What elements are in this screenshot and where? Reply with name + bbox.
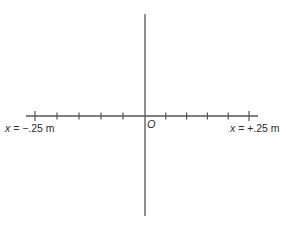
origin-label: O [147,119,156,130]
axes-svg [0,0,286,227]
x-min-label: x = −.25 m [5,123,55,134]
x-max-label: x = +.25 m [230,123,280,134]
coordinate-diagram: x = −.25 m O x = +.25 m [0,0,286,227]
